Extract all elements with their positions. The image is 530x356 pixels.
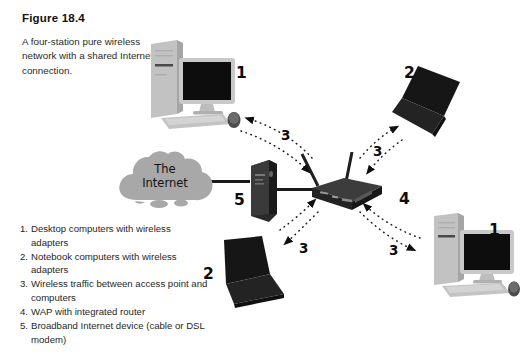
desktop-computer-top-left: [143, 38, 245, 136]
internet-cloud: The Internet: [115, 150, 215, 208]
legend-item: 4. WAP with integrated router: [20, 305, 210, 319]
legend-item-label: WAP with integrated router: [31, 305, 210, 319]
legend-item-label: Wireless traffic between access point an…: [31, 277, 210, 304]
callout-laptop-top-right: 2: [404, 64, 415, 82]
cloud-label: The Internet: [115, 162, 215, 190]
callout-wireless-bottom-left: 3: [299, 240, 308, 256]
legend-item-number: 1.: [20, 222, 31, 249]
legend-item-number: 3.: [20, 277, 31, 304]
figure-page: Figure 18.4 A four-station pure wireless…: [0, 0, 530, 356]
legend-item: 5. Broadband Internet device (cable or D…: [20, 319, 210, 346]
callout-wireless-top-right: 3: [373, 143, 382, 159]
legend-item-label: Notebook computers with wireless adapter…: [31, 250, 210, 277]
callout-laptop-bottom-left: 2: [203, 265, 214, 283]
wireless-link-bottom-right-inbound: [360, 212, 412, 249]
laptop-top-right: [388, 62, 474, 140]
figure-title: Figure 18.4: [22, 12, 172, 24]
callout-wap-router: 4: [399, 190, 410, 208]
cloud-label-line2: Internet: [115, 176, 215, 190]
callout-desktop-bottom-right: 1: [489, 221, 500, 239]
legend-item-number: 2.: [20, 250, 31, 277]
callout-wireless-bottom-right: 3: [389, 242, 398, 258]
callout-broadband-modem: 5: [234, 191, 245, 209]
legend-item-number: 5.: [20, 319, 31, 346]
legend-item: 3. Wireless traffic between access point…: [20, 277, 210, 304]
legend-item-number: 4.: [20, 305, 31, 319]
legend-list: 1. Desktop computers with wireless adapt…: [20, 222, 210, 347]
wap-router: [300, 152, 386, 212]
callout-wireless-top-left: 3: [281, 127, 290, 143]
callout-desktop-top-left: 1: [236, 64, 247, 82]
legend-item-label: Desktop computers with wireless adapters: [31, 222, 210, 249]
legend-item: 1. Desktop computers with wireless adapt…: [20, 222, 210, 249]
cloud-label-line1: The: [115, 162, 215, 176]
legend-item-label: Broadband Internet device (cable or DSL …: [31, 319, 210, 346]
desktop-computer-bottom-right: [428, 210, 524, 302]
laptop-bottom-left: [200, 232, 292, 312]
legend-item: 2. Notebook computers with wireless adap…: [20, 250, 210, 277]
broadband-modem: [247, 160, 277, 222]
